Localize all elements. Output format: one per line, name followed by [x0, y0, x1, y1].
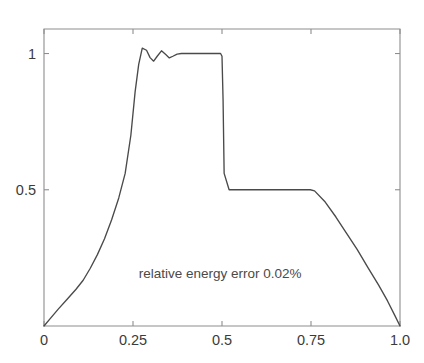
y-tick-labels: 0.51: [16, 46, 36, 198]
x-tick-label-2: 0.5: [212, 332, 232, 348]
y-tick-label-1: 1: [28, 46, 36, 62]
chart-annotations: relative energy error 0.02%: [139, 266, 302, 281]
figure-container: 00.250.50.751.0 0.51 relative energy err…: [0, 0, 424, 363]
x-tick-labels: 00.250.50.751.0: [40, 332, 410, 348]
x-tick-label-1: 0.25: [119, 332, 147, 348]
line-chart: 00.250.50.751.0 0.51 relative energy err…: [0, 0, 424, 363]
x-tick-label-4: 1.0: [390, 332, 410, 348]
x-tick-label-3: 0.75: [297, 332, 325, 348]
data-series-group: [44, 48, 400, 326]
y-tick-label-0: 0.5: [16, 182, 36, 198]
annotation-0: relative energy error 0.02%: [139, 266, 302, 281]
x-tick-label-0: 0: [40, 332, 48, 348]
series-line-0: [44, 48, 400, 326]
